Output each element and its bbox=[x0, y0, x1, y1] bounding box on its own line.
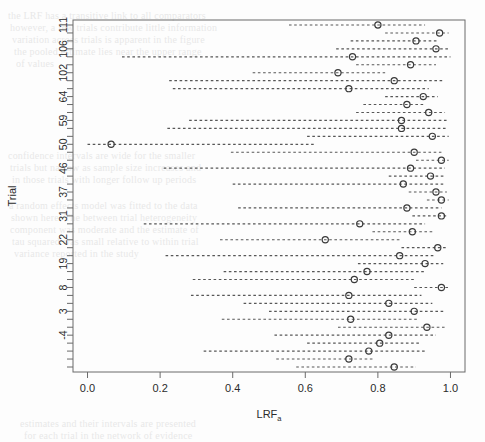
y-tick-label: 19 bbox=[57, 258, 69, 270]
y-tick-label: 50 bbox=[57, 138, 69, 150]
y-axis-title: Trial bbox=[6, 186, 18, 207]
x-tick-label: 0.2 bbox=[152, 382, 167, 394]
x-tick-label: 0.6 bbox=[298, 382, 313, 394]
y-tick-label: 59 bbox=[57, 114, 69, 126]
axis-tick-labels: 0.00.20.40.60.81.01111061026459504637312… bbox=[57, 17, 459, 394]
forest-plot-svg: 0.00.20.40.60.81.01111061026459504637312… bbox=[0, 0, 485, 442]
x-tick-label: 0.8 bbox=[370, 382, 385, 394]
y-tick-label: 22 bbox=[57, 234, 69, 246]
y-tick-label: 111 bbox=[57, 17, 69, 33]
x-axis-title: LRFa bbox=[257, 408, 283, 423]
x-tick-label: 0.4 bbox=[225, 382, 240, 394]
x-tick-label: 0.0 bbox=[80, 382, 95, 394]
y-tick-label: 102 bbox=[57, 64, 69, 82]
y-tick-label: 46 bbox=[57, 162, 69, 174]
y-tick-label: 31 bbox=[57, 210, 69, 222]
y-tick-label: 64 bbox=[57, 91, 69, 103]
y-tick-label: -4 bbox=[57, 330, 69, 339]
y-tick-label: 106 bbox=[57, 40, 69, 58]
confidence-interval-lines bbox=[88, 25, 451, 367]
point-estimate-markers bbox=[108, 22, 444, 370]
y-tick-label: 37 bbox=[57, 186, 69, 198]
y-tick-label: 3 bbox=[57, 308, 69, 314]
x-tick-label: 1.0 bbox=[443, 382, 458, 394]
figure-canvas: the LRF has a transitive link to all com… bbox=[0, 0, 485, 442]
y-tick-label: 8 bbox=[57, 284, 69, 290]
